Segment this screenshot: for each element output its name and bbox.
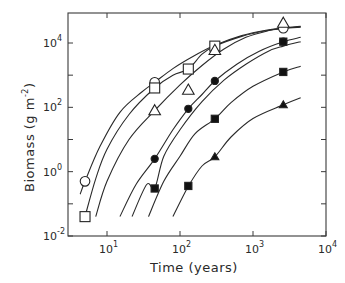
x-tick-label: 103 (245, 240, 264, 256)
series-markers (80, 17, 289, 221)
marker-filled-circle (185, 105, 192, 112)
marker-open-triangle (277, 17, 289, 27)
biomass-chart: 10110210310410-2100102104 Time (years) B… (0, 0, 345, 283)
marker-filled-triangle (279, 101, 287, 108)
marker-filled-square-lower (280, 38, 287, 45)
y-axis-title: Biomass (g m-2) (21, 83, 37, 192)
x-axis-title: Time (years) (149, 260, 238, 275)
marker-open-square (80, 212, 90, 222)
x-tick-label: 102 (172, 240, 191, 256)
curve-filled-circle (120, 37, 301, 216)
y-tick-label: 100 (43, 163, 62, 179)
marker-filled-square-upper (211, 115, 218, 122)
x-tick-label: 104 (318, 240, 337, 256)
marker-filled-circle (151, 155, 158, 162)
y-axis-title-close: ) (22, 83, 37, 89)
curve-open-triangle (96, 26, 301, 216)
curve-open-square (85, 27, 301, 216)
marker-filled-square-upper (185, 182, 192, 189)
axis-ticks (68, 13, 326, 236)
plot-frame (68, 13, 326, 236)
marker-open-circle (80, 177, 90, 187)
curve-filled-triangle (173, 98, 301, 217)
marker-open-triangle (183, 84, 195, 94)
marker-filled-circle (211, 77, 218, 84)
y-tick-label: 104 (43, 34, 62, 50)
x-tick-label: 101 (99, 240, 118, 256)
y-axis-title-main: Biomass (g m (22, 97, 37, 192)
marker-filled-square-upper (280, 68, 287, 75)
curve-filled-square-upper (149, 66, 301, 216)
y-axis-title-sup: -2 (21, 88, 30, 97)
marker-open-square (150, 83, 160, 93)
marker-open-square (183, 64, 193, 74)
y-axis-title-text: Biomass (g m-2) (21, 83, 37, 192)
y-tick-label: 102 (43, 98, 62, 114)
marker-filled-square-lower (151, 185, 158, 192)
y-tick-label: 10-2 (43, 227, 65, 243)
